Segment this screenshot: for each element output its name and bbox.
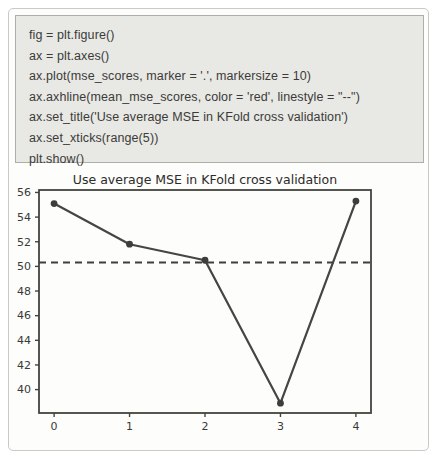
- y-tick-label: 56: [17, 186, 31, 199]
- y-tick-label: 42: [17, 359, 31, 372]
- code-line: ax.plot(mse_scores, marker = '.', marker…: [29, 66, 410, 87]
- data-point-marker: [353, 198, 360, 205]
- y-tick-label: 44: [17, 334, 31, 347]
- code-line: ax = plt.axes(): [29, 46, 410, 67]
- x-tick-label: 2: [202, 420, 209, 433]
- code-line: ax.set_xticks(range(5)): [29, 128, 410, 149]
- y-tick-label: 46: [17, 309, 31, 322]
- code-line: ax.set_title('Use average MSE in KFold c…: [29, 107, 410, 128]
- data-point-marker: [126, 241, 133, 248]
- code-line: ax.axhline(mean_mse_scores, color = 'red…: [29, 87, 410, 108]
- chart-title: Use average MSE in KFold cross validatio…: [73, 172, 337, 187]
- code-block: fig = plt.figure() ax = plt.axes() ax.pl…: [15, 15, 424, 163]
- y-tick-label: 40: [17, 383, 31, 396]
- y-tick-label: 48: [17, 285, 31, 298]
- mse-scores-line: [54, 201, 356, 403]
- x-tick-label: 0: [51, 420, 58, 433]
- y-tick-label: 52: [17, 236, 31, 249]
- mse-line-chart: Use average MSE in KFold cross validatio…: [0, 160, 421, 442]
- data-point-marker: [277, 400, 284, 407]
- y-tick-label: 54: [17, 211, 31, 224]
- x-tick-label: 3: [277, 420, 284, 433]
- data-point-marker: [51, 200, 58, 207]
- y-tick-label: 50: [17, 260, 31, 273]
- x-tick-label: 4: [352, 420, 359, 433]
- code-line: fig = plt.figure(): [29, 25, 410, 46]
- data-point-marker: [202, 257, 209, 264]
- x-tick-label: 1: [126, 420, 133, 433]
